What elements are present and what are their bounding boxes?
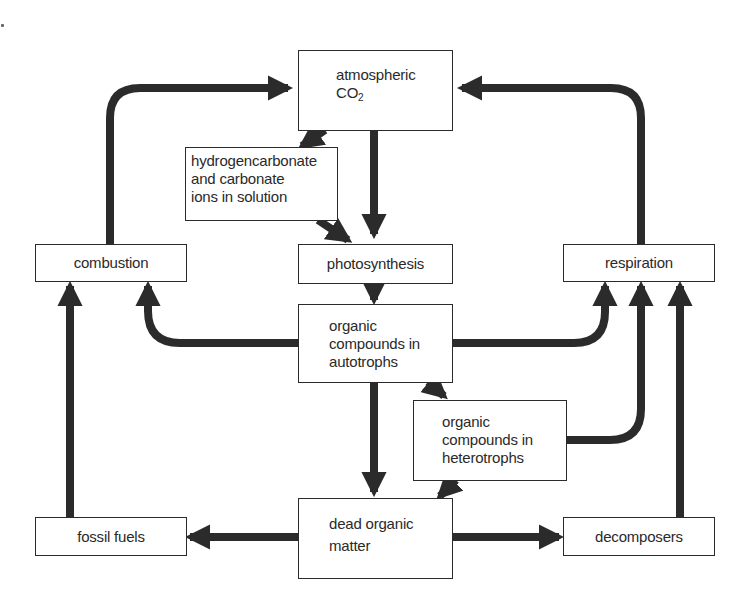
- arrow-heterotrophs-to-dead-matter: [440, 480, 456, 496]
- node-hydrogencarbonate: hydrogencarbonate and carbonate ions in …: [185, 147, 338, 221]
- arrow-co2-to-hydrogencarbonate: [302, 130, 325, 146]
- node-respiration-label: respiration: [605, 254, 673, 272]
- arrow-autotrophs-to-respiration: [452, 286, 605, 343]
- node-organic-compounds-heterotrophs: organic compounds in heterotrophs: [413, 400, 567, 481]
- node-combustion-label: combustion: [74, 254, 149, 272]
- node-decomposers-label: decomposers: [595, 528, 683, 546]
- arrow-respiration-to-co2: [462, 88, 641, 244]
- node-hydrogencarbonate-line2: and carbonate: [191, 170, 337, 188]
- node-photosynthesis-label: photosynthesis: [327, 255, 424, 273]
- co2-formula: CO: [336, 84, 358, 101]
- node-hydrogencarbonate-line1: hydrogencarbonate: [191, 152, 337, 170]
- node-organic-compounds-autotrophs: organic compounds in autotrophs: [298, 304, 453, 383]
- arrow-autotrophs-to-combustion: [148, 286, 298, 343]
- node-heterotrophs-line1: organic: [442, 413, 566, 431]
- node-fossil-fuels-label: fossil fuels: [77, 528, 145, 546]
- node-atmospheric-co2: atmospheric CO2: [298, 50, 453, 131]
- node-dead-matter-line2: matter: [329, 535, 452, 557]
- node-atmospheric-co2-line1: atmospheric: [336, 66, 452, 84]
- node-atmospheric-co2-line2: CO2: [336, 84, 452, 107]
- co2-subscript: 2: [358, 92, 363, 103]
- node-combustion: combustion: [35, 244, 187, 282]
- node-heterotrophs-line3: heterotrophs: [442, 449, 566, 467]
- scan-speck: [1, 24, 4, 27]
- node-decomposers: decomposers: [563, 517, 715, 556]
- node-fossil-fuels: fossil fuels: [35, 517, 187, 556]
- node-respiration: respiration: [563, 244, 715, 282]
- node-heterotrophs-line2: compounds in: [442, 431, 566, 449]
- node-photosynthesis: photosynthesis: [298, 244, 453, 284]
- node-autotrophs-line1: organic: [329, 317, 452, 335]
- node-autotrophs-line2: compounds in: [329, 335, 452, 353]
- node-autotrophs-line3: autotrophs: [329, 353, 452, 371]
- node-dead-matter-line1: dead organic: [329, 513, 452, 535]
- arrow-hydrogencarbonate-to-photosynthesis: [318, 220, 348, 240]
- node-hydrogencarbonate-line3: ions in solution: [191, 188, 337, 206]
- arrow-autotrophs-to-heterotrophs: [428, 382, 444, 396]
- node-dead-organic-matter: dead organic matter: [298, 498, 453, 579]
